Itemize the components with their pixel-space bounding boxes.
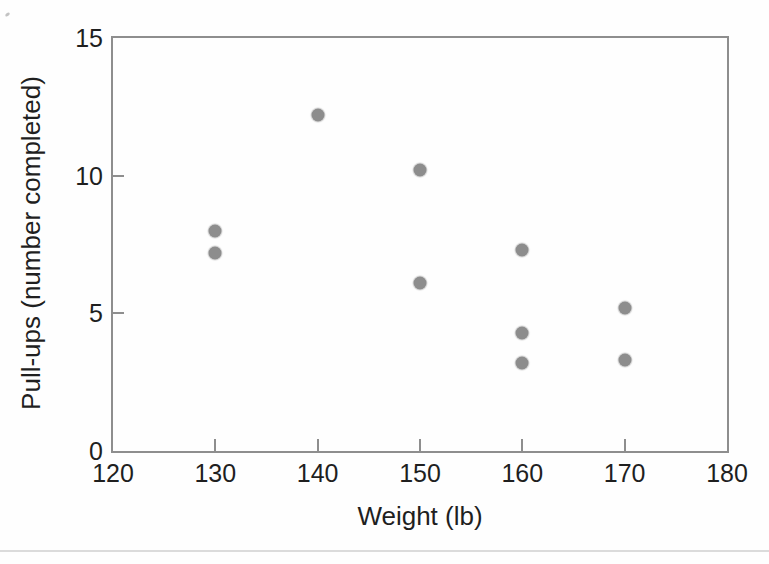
data-point	[209, 246, 222, 259]
x-tick-label: 160	[501, 459, 543, 488]
y-tick-label: 10	[75, 161, 103, 190]
x-tick-mark	[214, 439, 216, 451]
data-point	[618, 354, 631, 367]
scan-speck	[5, 12, 11, 17]
data-point	[516, 356, 529, 369]
x-tick-label: 180	[706, 459, 748, 488]
y-tick-label: 0	[89, 437, 103, 466]
x-tick-mark	[419, 439, 421, 451]
x-tick-mark	[317, 439, 319, 451]
y-axis-title: Pull-ups (number completed)	[16, 76, 47, 410]
x-tick-mark	[521, 439, 523, 451]
y-tick-label: 5	[89, 299, 103, 328]
scatter-plot-figure: Pull-ups (number completed) 120130140150…	[0, 0, 769, 564]
x-axis-title: Weight (lb)	[111, 501, 729, 532]
y-tick-mark	[113, 175, 124, 177]
y-tick-label: 15	[75, 24, 103, 53]
data-point	[209, 224, 222, 237]
data-point	[516, 244, 529, 257]
data-point	[414, 277, 427, 290]
x-tick-label: 170	[604, 459, 646, 488]
x-tick-label: 140	[297, 459, 339, 488]
y-tick-mark	[113, 312, 124, 314]
data-point	[414, 164, 427, 177]
x-tick-label: 150	[399, 459, 441, 488]
page-divider	[0, 550, 769, 552]
x-tick-label: 130	[194, 459, 236, 488]
x-tick-mark	[624, 439, 626, 451]
data-point	[311, 109, 324, 122]
plot-area: 120130140150160170180051015	[111, 36, 729, 453]
data-point	[618, 301, 631, 314]
data-point	[516, 326, 529, 339]
